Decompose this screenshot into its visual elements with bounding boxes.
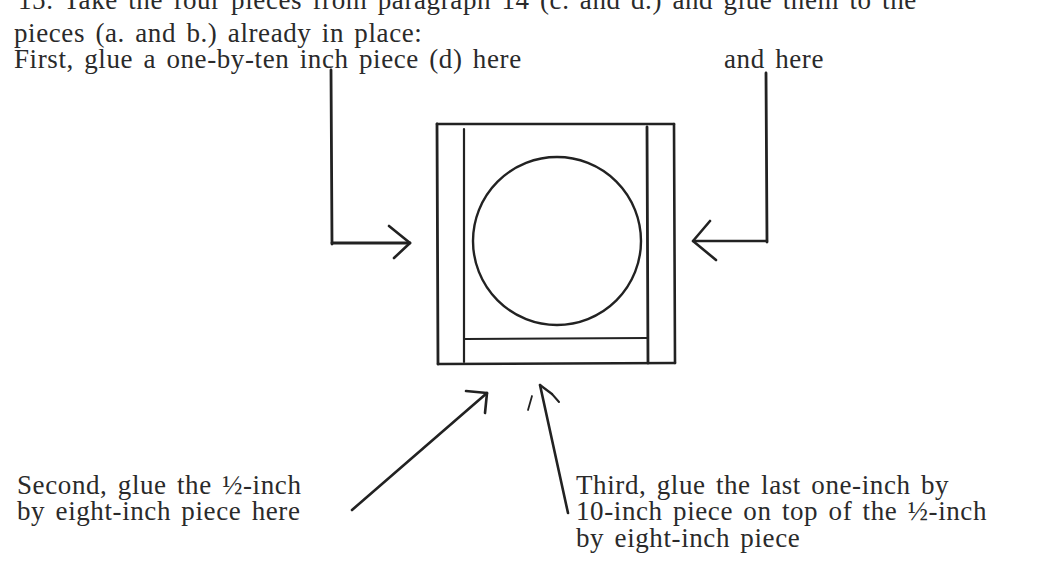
- bottom-strip: [465, 338, 648, 339]
- label-third-line-1: Third, glue the last one-inch by: [576, 471, 949, 499]
- arrow-third-icon: [528, 385, 568, 513]
- label-second-line-1: Second, glue the ½-inch: [17, 471, 301, 499]
- circle-opening: [473, 157, 641, 325]
- label-third-line-3: by eight-inch piece: [576, 524, 800, 552]
- inner-right-strip: [647, 127, 648, 363]
- arrow-second-icon: [352, 391, 487, 510]
- label-second-line-2: by eight-inch piece here: [17, 497, 301, 525]
- arrow-first-left-icon: [331, 70, 410, 258]
- arrow-first-right-icon: [693, 73, 767, 260]
- label-third-line-2: 10-inch piece on top of the ½-inch: [576, 497, 987, 525]
